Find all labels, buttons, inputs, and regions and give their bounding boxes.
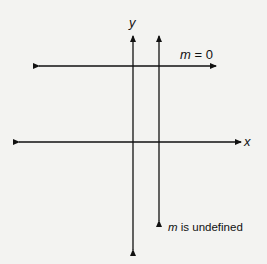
m-undefined-label: m is undefined	[168, 221, 243, 233]
m-undefined-rest: is undefined	[178, 221, 243, 233]
m-undefined-var: m	[168, 221, 178, 233]
m-zero-var: m	[180, 47, 191, 62]
slope-diagram: y x m = 0 m is undefined	[0, 0, 267, 264]
x-axis-label: x	[243, 134, 251, 149]
m-zero-rest: = 0	[191, 47, 213, 62]
y-axis-label: y	[128, 15, 137, 30]
m-zero-label: m = 0	[180, 47, 213, 62]
